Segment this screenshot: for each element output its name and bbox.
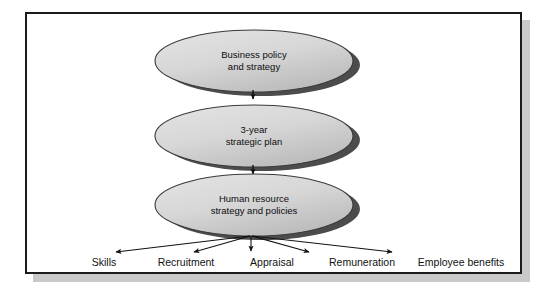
node-hr-strategy[interactable]: Human resource strategy and policies bbox=[155, 174, 360, 240]
arrow-to-recruitment bbox=[194, 236, 250, 252]
output-labels: Skills Recruitment Appraisal Remuneratio… bbox=[92, 256, 504, 268]
node-strategic-plan-label-line2: strategic plan bbox=[226, 136, 283, 147]
node-business-policy-label-line1: Business policy bbox=[221, 49, 287, 60]
node-business-policy[interactable]: Business policy and strategy bbox=[155, 30, 360, 96]
node-strategic-plan-label-line1: 3-year bbox=[241, 124, 268, 135]
node-business-policy-label-line2: and strategy bbox=[228, 61, 281, 72]
output-remuneration-label[interactable]: Remuneration bbox=[329, 256, 395, 268]
output-skills-label[interactable]: Skills bbox=[92, 256, 117, 268]
output-appraisal-label[interactable]: Appraisal bbox=[250, 256, 294, 268]
diagram-canvas: Business policy and strategy 3-year stra… bbox=[0, 0, 554, 302]
arrow-to-employee-benefits bbox=[252, 236, 392, 252]
node-strategic-plan[interactable]: 3-year strategic plan bbox=[155, 105, 360, 171]
node-hr-strategy-label-line1: Human resource bbox=[219, 193, 289, 204]
output-recruitment-label[interactable]: Recruitment bbox=[158, 256, 215, 268]
output-employee-benefits-label[interactable]: Employee benefits bbox=[418, 256, 504, 268]
cascade-diagram: Business policy and strategy 3-year stra… bbox=[0, 0, 554, 302]
node-hr-strategy-label-line2: strategy and policies bbox=[211, 205, 298, 216]
arrow-to-skills bbox=[116, 236, 250, 252]
